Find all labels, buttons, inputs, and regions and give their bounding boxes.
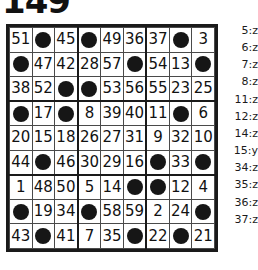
cell-number: 5 [79, 180, 101, 195]
black-circle-icon [81, 32, 97, 48]
grid-cell[interactable]: 12 [169, 175, 192, 200]
grid-cell[interactable]: 24 [169, 199, 192, 224]
grid-cell[interactable]: 36 [123, 28, 146, 53]
grid-cell[interactable]: 55 [146, 77, 169, 102]
grid-cell[interactable]: 18 [55, 126, 78, 151]
grid-row: 444630291633 [10, 150, 215, 175]
grid-cell[interactable]: 19 [32, 199, 55, 224]
grid-cell[interactable]: 7 [78, 224, 101, 249]
grid-row: 20151826273193210 [10, 126, 215, 151]
grid-cell[interactable]: 28 [78, 52, 101, 77]
grid-cell[interactable]: 32 [169, 126, 192, 151]
grid-cell[interactable] [78, 199, 101, 224]
cell-number: 23 [170, 81, 192, 96]
grid-cell[interactable]: 46 [55, 150, 78, 175]
grid-cell[interactable]: 22 [146, 224, 169, 249]
grid-cell[interactable]: 23 [169, 77, 192, 102]
grid-cell[interactable]: 1 [10, 175, 33, 200]
grid-cell[interactable] [32, 150, 55, 175]
black-circle-icon [150, 179, 166, 195]
grid-cell[interactable]: 30 [78, 150, 101, 175]
black-circle-icon [195, 204, 211, 220]
grid-cell[interactable]: 39 [101, 101, 124, 126]
grid-cell[interactable]: 34 [55, 199, 78, 224]
grid-cell[interactable]: 47 [32, 52, 55, 77]
grid-cell[interactable]: 56 [123, 77, 146, 102]
grid-cell[interactable]: 54 [146, 52, 169, 77]
grid-cell[interactable] [55, 77, 78, 102]
grid-cell[interactable] [169, 28, 192, 53]
grid-cell[interactable] [78, 28, 101, 53]
black-circle-icon [58, 106, 74, 122]
grid-cell[interactable]: 49 [101, 28, 124, 53]
grid-cell[interactable]: 16 [123, 150, 146, 175]
grid-cell[interactable]: 42 [55, 52, 78, 77]
grid-cell[interactable]: 17 [32, 101, 55, 126]
cell-number: 50 [55, 180, 77, 195]
grid-cell[interactable]: 41 [55, 224, 78, 249]
grid-cell[interactable] [192, 52, 215, 77]
grid-cell[interactable]: 20 [10, 126, 33, 151]
grid-cell[interactable] [192, 199, 215, 224]
grid-cell[interactable]: 40 [123, 101, 146, 126]
grid-cell[interactable] [169, 101, 192, 126]
grid-cell[interactable]: 48 [32, 175, 55, 200]
black-circle-icon [81, 204, 97, 220]
grid-cell[interactable] [10, 101, 33, 126]
grid-cell[interactable]: 14 [101, 175, 124, 200]
grid-cell[interactable]: 50 [55, 175, 78, 200]
grid-cell[interactable]: 5 [78, 175, 101, 200]
grid-cell[interactable] [32, 224, 55, 249]
grid-cell[interactable]: 9 [146, 126, 169, 151]
grid-cell[interactable] [146, 150, 169, 175]
grid-cell[interactable]: 53 [101, 77, 124, 102]
grid-cell[interactable]: 45 [55, 28, 78, 53]
grid-cell[interactable]: 4 [192, 175, 215, 200]
grid-cell[interactable] [192, 150, 215, 175]
grid-cell[interactable]: 29 [101, 150, 124, 175]
grid-cell[interactable] [123, 175, 146, 200]
grid-cell[interactable]: 35 [101, 224, 124, 249]
cell-number: 16 [124, 155, 146, 170]
legend-entry: 14:z [222, 125, 258, 142]
grid-cell[interactable] [78, 77, 101, 102]
grid-cell[interactable]: 15 [32, 126, 55, 151]
grid-cell[interactable]: 10 [192, 126, 215, 151]
grid-cell[interactable]: 33 [169, 150, 192, 175]
grid-cell[interactable] [10, 199, 33, 224]
grid-cell[interactable]: 44 [10, 150, 33, 175]
grid-cell[interactable]: 26 [78, 126, 101, 151]
grid-cell[interactable] [146, 175, 169, 200]
grid-cell[interactable]: 6 [192, 101, 215, 126]
grid-cell[interactable]: 31 [123, 126, 146, 151]
grid-cell[interactable]: 57 [101, 52, 124, 77]
grid-cell[interactable]: 52 [32, 77, 55, 102]
legend-entry: 15:y [222, 142, 258, 159]
grid-cell[interactable]: 2 [146, 199, 169, 224]
grid-cell[interactable] [32, 28, 55, 53]
grid-cell[interactable]: 8 [78, 101, 101, 126]
grid-cell[interactable]: 25 [192, 77, 215, 102]
grid-cell[interactable]: 38 [10, 77, 33, 102]
grid-cell[interactable]: 21 [192, 224, 215, 249]
grid-cell[interactable] [10, 52, 33, 77]
grid-cell[interactable]: 37 [146, 28, 169, 53]
grid-cell[interactable]: 43 [10, 224, 33, 249]
cell-number: 11 [147, 106, 169, 121]
grid-cell[interactable] [55, 101, 78, 126]
grid-cell[interactable] [169, 224, 192, 249]
grid-cell[interactable]: 51 [10, 28, 33, 53]
page-title: 149 [2, 0, 70, 18]
grid-cell[interactable]: 59 [123, 199, 146, 224]
grid-cell[interactable] [123, 224, 146, 249]
cell-number: 58 [101, 204, 123, 219]
grid-cell[interactable]: 3 [192, 28, 215, 53]
grid-cell[interactable]: 58 [101, 199, 124, 224]
legend-entry: 35:z [222, 176, 258, 193]
black-circle-icon [173, 32, 189, 48]
cell-number: 31 [124, 130, 146, 145]
grid-cell[interactable]: 11 [146, 101, 169, 126]
grid-cell[interactable]: 13 [169, 52, 192, 77]
grid-cell[interactable]: 27 [101, 126, 124, 151]
grid-cell[interactable] [123, 52, 146, 77]
